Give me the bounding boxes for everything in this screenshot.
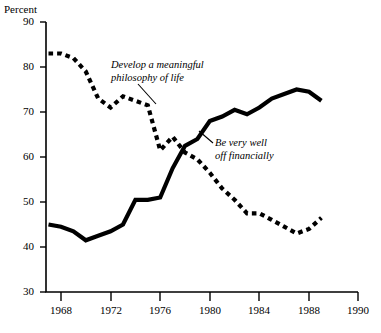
series-annotation-philosophy: Develop a meaningful philosophy of life <box>111 59 204 84</box>
x-tick-label-1976: 1976 <box>140 305 180 316</box>
y-tick-label-70: 70 <box>8 106 34 117</box>
series-line-financial <box>49 90 322 241</box>
annotation-philosophy-line1: Develop a meaningful <box>111 59 204 72</box>
x-tick-label-1968: 1968 <box>41 305 81 316</box>
y-axis-ticks <box>40 22 46 292</box>
chart-plot-area <box>0 0 381 333</box>
x-tick-label-1990: 1990 <box>338 305 378 316</box>
series-annotation-financial: Be very well off financially <box>215 137 274 162</box>
annotation-financial-line1: Be very well <box>215 137 274 150</box>
y-tick-label-60: 60 <box>8 151 34 162</box>
chart-figure: Percent <box>0 0 381 333</box>
y-tick-label-80: 80 <box>8 61 34 72</box>
y-tick-label-50: 50 <box>8 196 34 207</box>
x-tick-label-1988: 1988 <box>289 305 329 316</box>
x-tick-label-1972: 1972 <box>91 305 131 316</box>
annotation-philosophy-line2: philosophy of life <box>111 72 204 85</box>
y-tick-label-30: 30 <box>8 286 34 297</box>
x-tick-label-1980: 1980 <box>190 305 230 316</box>
y-tick-label-40: 40 <box>8 241 34 252</box>
x-tick-label-1984: 1984 <box>239 305 279 316</box>
x-axis-ticks <box>61 292 358 301</box>
y-tick-label-90: 90 <box>8 16 34 27</box>
annotation-financial-line2: off financially <box>215 150 274 163</box>
